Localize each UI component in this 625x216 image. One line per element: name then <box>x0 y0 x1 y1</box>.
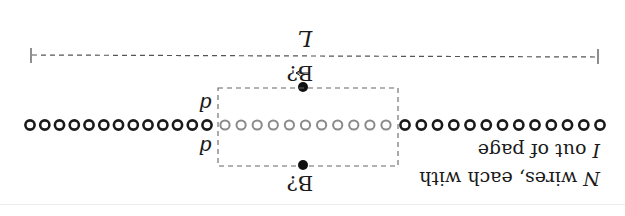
wire-circle-outside <box>482 120 491 129</box>
wire-circle-enclosed <box>381 120 390 129</box>
field-point-top: B? <box>287 61 314 92</box>
field-label-bottom: B? <box>287 171 314 195</box>
wire-circle-outside <box>129 120 138 129</box>
caption-line-2-rest: out of page <box>478 140 593 162</box>
wire-circle-outside <box>99 120 108 129</box>
caption-line-2: I out of page <box>478 140 601 162</box>
wire-circle-outside <box>173 120 182 129</box>
wire-circle-outside <box>84 120 93 129</box>
length-dimension: L <box>31 26 598 64</box>
wire-circle-enclosed <box>253 120 262 129</box>
wire-circle-outside <box>547 120 556 129</box>
distance-label-top: d <box>199 92 212 116</box>
wire-circle-outside <box>55 120 64 129</box>
wire-circle-outside <box>202 120 211 129</box>
caption: I out of page N wires, each with <box>419 140 601 190</box>
wire-circle-outside <box>114 120 123 129</box>
wire-circle-enclosed <box>269 120 278 129</box>
field-point-top-dot <box>298 82 308 92</box>
wire-circle-enclosed <box>365 120 374 129</box>
wire-circle-outside <box>595 120 604 129</box>
wire-circle-outside <box>563 120 572 129</box>
wire-row <box>25 120 604 129</box>
field-point-bottom: B? <box>287 160 314 195</box>
wire-circle-enclosed <box>349 120 358 129</box>
wire-circle-outside <box>498 120 507 129</box>
length-label: L <box>298 26 314 51</box>
wire-circle-enclosed <box>237 120 246 129</box>
caption-line-1: N wires, each with <box>419 168 601 190</box>
wire-circle-outside <box>465 120 474 129</box>
field-point-bottom-dot <box>298 160 308 170</box>
wire-circle-enclosed <box>333 120 342 129</box>
wire-circle-outside <box>579 120 588 129</box>
wire-circle-outside <box>25 120 34 129</box>
wire-circle-outside <box>530 120 539 129</box>
wire-count-symbol: N <box>582 168 601 190</box>
wire-circle-outside <box>70 120 79 129</box>
wire-circle-outside <box>433 120 442 129</box>
wire-circle-outside <box>514 120 523 129</box>
wire-circle-enclosed <box>301 120 310 129</box>
wire-circle-enclosed <box>285 120 294 129</box>
wire-circle-enclosed <box>220 120 229 129</box>
wire-circle-outside <box>158 120 167 129</box>
length-dashed-line <box>32 55 598 57</box>
wire-circle-outside <box>417 120 426 129</box>
caption-line-1-rest: wires, each with <box>419 168 583 190</box>
wire-circle-outside <box>400 120 409 129</box>
bottom-edge-rule <box>0 204 625 205</box>
wire-circle-outside <box>143 120 152 129</box>
distance-label-bottom: d <box>199 135 212 159</box>
wire-sheet-diagram: L B? d d B? I out of page <box>0 0 625 216</box>
wire-circle-outside <box>188 120 197 129</box>
wire-circle-outside <box>449 120 458 129</box>
wire-circle-enclosed <box>317 120 326 129</box>
wire-circle-outside <box>40 120 49 129</box>
